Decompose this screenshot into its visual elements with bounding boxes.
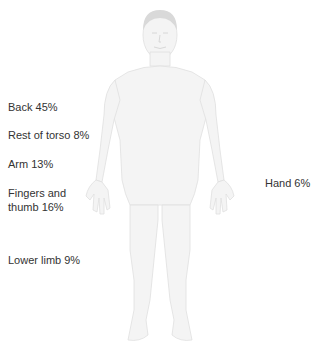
label-lower-limb: Lower limb 9% — [8, 254, 80, 267]
torso — [111, 66, 208, 205]
hand-left — [86, 180, 110, 214]
label-fingers-thumb-line2: thumb 16% — [8, 201, 64, 214]
label-back: Back 45% — [8, 101, 58, 114]
label-rest-of-torso: Rest of torso 8% — [8, 129, 89, 142]
neck — [150, 52, 170, 66]
arm-left — [96, 80, 120, 182]
human-body-figure — [0, 0, 317, 350]
hand-right — [210, 180, 234, 214]
label-fingers-thumb-line1: Fingers and — [8, 187, 66, 200]
leg-left — [128, 205, 158, 340]
leg-right — [162, 205, 192, 340]
label-hand: Hand 6% — [265, 177, 310, 190]
arm-right — [200, 80, 224, 182]
label-arm: Arm 13% — [8, 158, 53, 171]
